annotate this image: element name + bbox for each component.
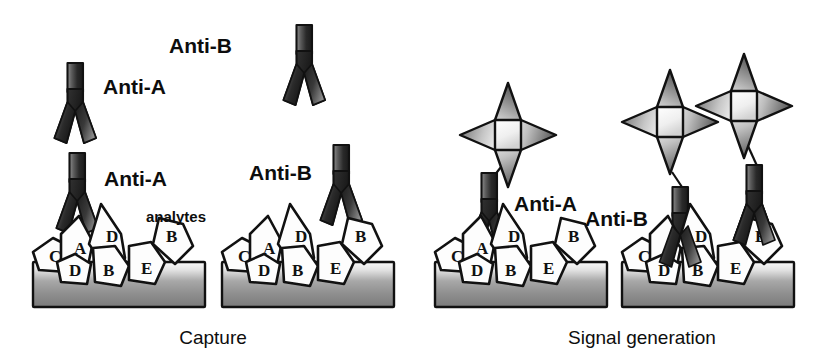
- analyte-label-b1: B: [103, 261, 114, 280]
- analyte-label-e: E: [730, 259, 741, 278]
- analyte-label-d2: D: [69, 261, 81, 280]
- analyte-label-d1: D: [695, 227, 707, 246]
- analyte-label-e: E: [330, 259, 341, 278]
- analyte-label-e: E: [543, 259, 554, 278]
- analyte-label-d2: D: [258, 261, 270, 280]
- analyte-label-b2: B: [355, 227, 366, 246]
- analyte-label-d1: D: [295, 227, 307, 246]
- panel-label-signal-generation: Signal generation: [568, 327, 716, 348]
- panel-label-capture: Capture: [179, 327, 247, 348]
- label-anti-a-signal: Anti-A: [514, 192, 577, 215]
- analyte-label-c: C: [638, 247, 650, 266]
- analyte-label-d2: D: [471, 261, 483, 280]
- analyte-label-b2: B: [166, 227, 177, 246]
- analyte-label-b2: B: [568, 227, 579, 246]
- analyte-label-a: A: [74, 239, 87, 258]
- label-anti-b-capture: Anti-B: [249, 161, 312, 184]
- analyte-label-d1: D: [106, 227, 118, 246]
- analyte-label-c: C: [451, 247, 463, 266]
- analyte-label-c: C: [49, 247, 61, 266]
- analyte-label-c: C: [238, 247, 250, 266]
- analyte-label-a: A: [476, 239, 489, 258]
- label-analytes: analytes: [146, 208, 206, 225]
- analyte-label-b1: B: [292, 261, 303, 280]
- analyte-label-b1: B: [505, 261, 516, 280]
- label-anti-b-signal: Anti-B: [585, 207, 648, 230]
- analyte-label-e: E: [141, 259, 152, 278]
- analyte-label-d1: D: [508, 227, 520, 246]
- immunoassay-diagram: Anti-A Anti-B Anti-A C A D D B E: [0, 0, 826, 358]
- diagram-canvas: Anti-A Anti-B Anti-A C A D D B E: [0, 0, 826, 358]
- analyte-label-a: A: [263, 239, 276, 258]
- label-anti-a-free: Anti-A: [103, 75, 166, 98]
- label-anti-b-free: Anti-B: [169, 34, 232, 57]
- label-anti-a-capture: Anti-A: [104, 167, 167, 190]
